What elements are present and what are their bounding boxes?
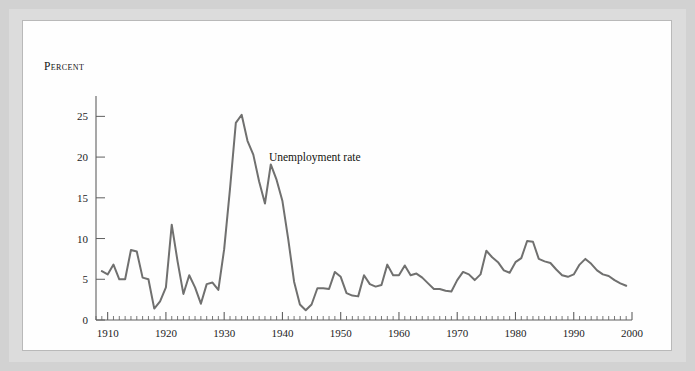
- y-tick-label-20: 20: [77, 151, 89, 163]
- x-axis-minor-ticks: [96, 316, 626, 320]
- y-tick-label-10: 10: [77, 233, 89, 245]
- x-tick-label-1970: 1970: [446, 327, 469, 339]
- x-axis-tick-labels: 1910192019301940195019601970198019902000: [97, 327, 644, 339]
- x-tick-label-1980: 1980: [504, 327, 527, 339]
- y-tick-label-5: 5: [83, 273, 89, 285]
- x-tick-label-1940: 1940: [271, 327, 294, 339]
- x-tick-label-1990: 1990: [563, 327, 586, 339]
- y-tick-label-25: 25: [77, 110, 89, 122]
- figure-background: 0510152025 19101920193019401950196019701…: [0, 0, 695, 371]
- x-tick-label-1930: 1930: [213, 327, 236, 339]
- y-axis-title: Percent: [44, 60, 84, 72]
- x-tick-label-1910: 1910: [97, 327, 120, 339]
- y-tick-label-15: 15: [77, 192, 89, 204]
- x-tick-label-1960: 1960: [388, 327, 411, 339]
- x-tick-label-2000: 2000: [621, 327, 644, 339]
- y-axis-ticks: [96, 116, 105, 320]
- unemployment-rate-line-chart: 0510152025 19101920193019401950196019701…: [22, 20, 672, 351]
- y-tick-label-0: 0: [83, 314, 89, 326]
- y-axis-tick-labels: 0510152025: [77, 110, 89, 326]
- chart-annotations: Unemployment rate: [269, 151, 361, 164]
- annotation-0: Unemployment rate: [269, 151, 361, 164]
- x-tick-label-1920: 1920: [155, 327, 178, 339]
- x-tick-label-1950: 1950: [330, 327, 353, 339]
- unemployment-rate-series: [102, 115, 626, 311]
